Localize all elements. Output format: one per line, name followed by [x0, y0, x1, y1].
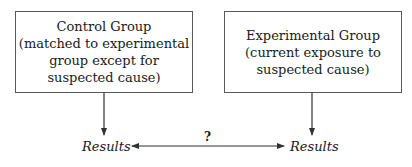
experimental-results-label: Results	[290, 139, 339, 154]
control-results-label: Results	[82, 139, 131, 154]
comparison-question-label: ?	[204, 130, 211, 144]
